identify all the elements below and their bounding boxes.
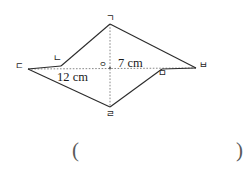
vertex-label-g: ㄱ bbox=[106, 14, 115, 24]
answer-open-paren: ( bbox=[72, 131, 79, 169]
answer-row: ( ) bbox=[0, 131, 250, 169]
answer-blank[interactable] bbox=[84, 131, 234, 169]
vertex-label-m: ㅁ bbox=[158, 69, 167, 79]
dimension-label-vertical: 7 cm bbox=[118, 57, 143, 70]
answer-close-paren: ) bbox=[236, 131, 243, 169]
edge-m-r bbox=[110, 69, 162, 107]
vertex-label-r: ㄹ bbox=[106, 110, 115, 120]
vertex-label-n: ㄴ bbox=[53, 54, 62, 64]
dimension-label-horizontal: 12 cm bbox=[57, 71, 88, 84]
vertex-label-b: ㅂ bbox=[199, 61, 208, 71]
vertex-label-o: ㅇ bbox=[99, 60, 107, 69]
center-point-marker bbox=[109, 67, 111, 69]
vertex-label-d: ㄷ bbox=[15, 62, 24, 72]
